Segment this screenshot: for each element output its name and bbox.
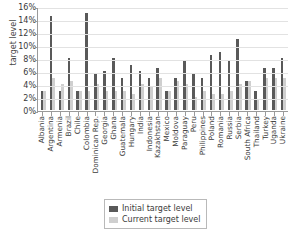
y-axis-tick: [35, 73, 38, 74]
bar-group: [261, 8, 270, 110]
legend-item-initial: Initial target level: [109, 203, 200, 214]
bar-current: [266, 78, 269, 111]
gridline: [38, 60, 288, 61]
x-axis-tick-label: Philippines: [199, 116, 207, 155]
x-axis-tick-label: Georgia: [101, 116, 109, 145]
bar-group: [252, 8, 261, 110]
x-axis-tick-label: Mexico: [164, 116, 172, 141]
x-axis-tick-label: Brazil: [65, 116, 73, 136]
bar-current: [239, 84, 242, 110]
legend-swatch-current-icon: [109, 217, 118, 223]
y-axis-tick-label: 12%: [18, 30, 36, 38]
x-axis-tick-labels: AlbaniaArgentinaArmeniaBrazilChileColomb…: [38, 116, 288, 196]
bar-current: [88, 91, 91, 111]
y-axis-tick: [35, 8, 38, 9]
bar-group: [137, 8, 146, 110]
x-axis-tick-label: Albania: [39, 116, 47, 143]
bar-chart: target level 0%2%4%6%8%10%12%14%16% Alba…: [0, 0, 290, 237]
bar-group: [66, 8, 75, 110]
plot-area: [37, 8, 288, 112]
bar-group: [270, 8, 279, 110]
bar-current: [115, 91, 118, 111]
x-axis-tick-label: Argentina: [48, 116, 56, 152]
bar-group: [279, 8, 288, 110]
bar-group: [181, 8, 190, 110]
bar-group: [243, 8, 252, 110]
gridline: [38, 21, 288, 22]
x-axis-tick-label: Colombia: [83, 116, 91, 150]
bar-group: [217, 8, 226, 110]
legend-label-current: Current target level: [122, 215, 200, 224]
gridline: [38, 34, 288, 35]
bar-current: [141, 84, 144, 110]
gridline: [38, 47, 288, 48]
x-axis-tick-label: Ghana: [110, 116, 118, 140]
bar-group: [83, 8, 92, 110]
chart-legend: Initial target level Current target leve…: [104, 199, 207, 229]
bar-group: [155, 8, 164, 110]
bar-current: [43, 91, 46, 111]
bar-current: [186, 84, 189, 110]
bar-current: [159, 78, 162, 111]
x-axis-tick-label: Guatemala: [119, 116, 127, 156]
x-axis-tick-label: Turkey: [262, 116, 270, 140]
y-axis-tick: [35, 21, 38, 22]
bar-group: [199, 8, 208, 110]
x-axis-tick-label: Hungary: [128, 116, 136, 147]
gridline: [38, 99, 288, 100]
bar-group: [48, 8, 57, 110]
bar-group: [235, 8, 244, 110]
bar-current: [61, 84, 64, 110]
bar-current: [275, 78, 278, 111]
bar-group: [57, 8, 66, 110]
bar-current: [97, 84, 100, 110]
y-axis-tick: [35, 99, 38, 100]
x-axis-tick-label: Peru: [190, 116, 198, 132]
y-axis-tick: [35, 60, 38, 61]
bar-current: [106, 91, 109, 111]
x-axis-tick-label: Russia: [226, 116, 234, 139]
bar-group: [172, 8, 181, 110]
bar-current: [212, 94, 215, 110]
bar-current: [221, 94, 224, 110]
bar-current: [168, 91, 171, 111]
x-axis-tick-label: Paraguay: [181, 116, 189, 150]
x-axis-tick-label: Armenia: [57, 116, 65, 147]
x-axis-tick-label: Romania: [217, 116, 225, 148]
bar-current: [230, 91, 233, 111]
y-axis-tick-labels: 0%2%4%6%8%10%12%14%16%: [12, 8, 36, 112]
x-axis-tick-label: Ukraine: [280, 116, 288, 144]
y-axis-tick-label: 16%: [18, 4, 36, 12]
y-axis-tick-label: 14%: [18, 17, 36, 25]
y-axis-tick: [35, 34, 38, 35]
bar-group: [128, 8, 137, 110]
bar-current: [257, 100, 260, 110]
x-axis-tick-label: Moldova: [173, 116, 181, 147]
bar-group: [39, 8, 48, 110]
gridline: [38, 8, 288, 9]
bar-group: [190, 8, 199, 110]
x-axis-tick-label: South Africa: [244, 116, 252, 160]
x-axis-tick-label: Kazakhstan: [155, 116, 163, 158]
legend-swatch-initial-icon: [109, 206, 118, 212]
bar-current: [52, 78, 55, 111]
gridline: [38, 73, 288, 74]
x-axis-tick-label: India: [137, 116, 145, 134]
bar-current: [79, 91, 82, 111]
x-axis-tick-label: Indonesia: [146, 116, 154, 151]
bar-groups: [39, 8, 288, 110]
bar-current: [132, 94, 135, 110]
bar-group: [119, 8, 128, 110]
bar-current: [203, 91, 206, 111]
bar-group: [163, 8, 172, 110]
bar-group: [101, 8, 110, 110]
y-axis-tick: [35, 47, 38, 48]
x-axis-tick-label: Dominican Rep.: [92, 116, 100, 173]
gridline: [38, 86, 288, 87]
bar-current: [283, 78, 286, 111]
x-axis-tick-label: Uganda: [271, 116, 279, 144]
x-axis-tick-label: Chile: [74, 116, 82, 134]
bar-group: [92, 8, 101, 110]
bar-group: [110, 8, 119, 110]
bar-group: [226, 8, 235, 110]
